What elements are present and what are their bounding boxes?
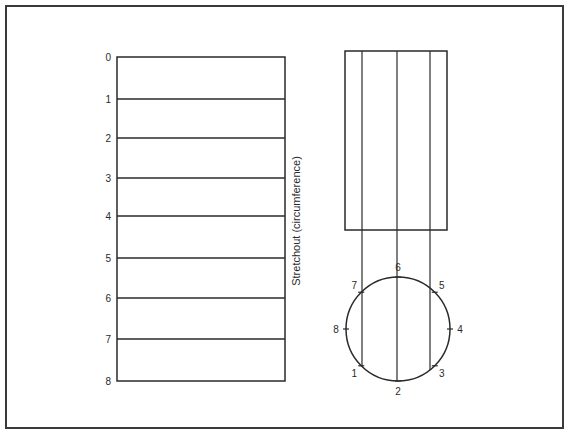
division-label: 2 — [105, 133, 111, 144]
division-label: 6 — [105, 293, 111, 304]
circle-division-points: 12345678 — [333, 262, 463, 397]
division-label: 0 — [105, 52, 111, 63]
division-label: 3 — [105, 173, 111, 184]
pattern-development-diagram: 012345678 Stretchout (circumference) 123… — [0, 0, 566, 435]
cylinder-elevation — [345, 51, 447, 230]
elevation-outline — [345, 51, 447, 230]
circle-point-label: 7 — [351, 280, 357, 291]
circle-point-label: 5 — [439, 280, 445, 291]
circle-point-label: 3 — [439, 368, 445, 379]
division-label: 1 — [105, 94, 111, 105]
division-label: 5 — [105, 253, 111, 264]
circle-point-label: 2 — [395, 386, 401, 397]
stretchout-outline — [117, 57, 285, 381]
stretchout-axis-label: Stretchout (circumference) — [290, 156, 302, 286]
stretchout-division-labels: 012345678 — [105, 52, 111, 387]
stretchout-division-lines — [117, 99, 285, 339]
circle-point-label: 6 — [395, 262, 401, 273]
circle-point-label: 4 — [457, 324, 463, 335]
circle-point-label: 8 — [333, 324, 339, 335]
division-label: 4 — [105, 211, 111, 222]
division-label: 8 — [105, 376, 111, 387]
circle-point-label: 1 — [351, 368, 357, 379]
stretchout-pattern: 012345678 — [105, 52, 285, 387]
projection-lines — [362, 51, 430, 381]
division-label: 7 — [105, 334, 111, 345]
